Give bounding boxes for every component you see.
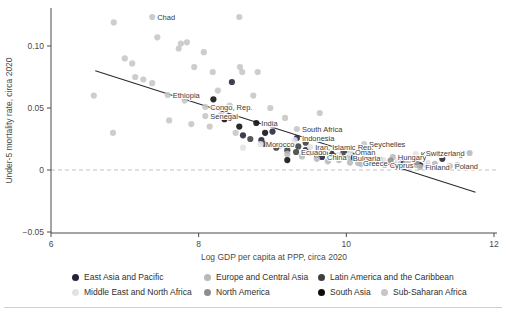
data-point bbox=[132, 74, 138, 80]
data-point bbox=[91, 93, 97, 99]
data-point bbox=[240, 145, 246, 151]
data-point bbox=[317, 110, 323, 116]
y-axis-title: Under-5 mortality rate, circa 2020 bbox=[4, 57, 14, 183]
figure-container: ChadEthiopiaCongo, Rep.SenegalSouth Afri… bbox=[0, 0, 506, 312]
legend-label: Europe and Central Asia bbox=[216, 272, 308, 282]
country-label: Morocco bbox=[266, 140, 295, 149]
legend-item-sa: South Asia bbox=[318, 287, 371, 297]
data-point bbox=[236, 14, 242, 20]
data-point bbox=[239, 69, 245, 75]
x-tick-label: 12 bbox=[489, 239, 499, 249]
data-point bbox=[282, 115, 288, 121]
data-point bbox=[258, 141, 264, 147]
data-point bbox=[202, 113, 208, 119]
data-point bbox=[467, 150, 473, 156]
country-label: Poland bbox=[455, 162, 478, 171]
data-point bbox=[110, 130, 116, 136]
country-label: South Africa bbox=[302, 125, 343, 134]
data-point bbox=[176, 45, 182, 51]
country-label: Greece bbox=[363, 159, 388, 168]
legend-item-mena: Middle East and North Africa bbox=[72, 287, 192, 297]
country-label: Switzerland bbox=[426, 149, 465, 158]
legend-dot-eap bbox=[72, 274, 79, 281]
data-point bbox=[284, 157, 290, 163]
legend-dot-ssa bbox=[381, 289, 388, 296]
x-axis-title: Log GDP per capita at PPP, circa 2020 bbox=[201, 252, 347, 262]
data-point bbox=[250, 93, 256, 99]
country-label: Chad bbox=[157, 13, 175, 22]
data-point bbox=[184, 39, 190, 45]
country-label: Cyprus bbox=[390, 161, 414, 170]
data-point bbox=[247, 136, 253, 142]
data-point bbox=[166, 117, 172, 123]
country-label: China bbox=[327, 153, 347, 162]
country-label: India bbox=[261, 119, 278, 128]
legend-dot-mena bbox=[72, 289, 79, 296]
data-point bbox=[191, 64, 197, 70]
legend-item-ssa: Sub-Saharan Africa bbox=[381, 287, 467, 297]
legend-label: North America bbox=[216, 287, 270, 297]
legend-item-na: North America bbox=[204, 287, 270, 297]
country-label: Indonesia bbox=[302, 134, 335, 143]
y-tick-label: 0.10 bbox=[27, 41, 44, 51]
data-point bbox=[149, 14, 155, 20]
data-point bbox=[188, 121, 194, 127]
legend-item-lac: Latin America and the Caribbean bbox=[318, 272, 454, 282]
country-label: Ethiopia bbox=[173, 91, 201, 100]
data-point bbox=[229, 79, 235, 85]
y-tick-label: 0 bbox=[39, 165, 44, 175]
data-point bbox=[294, 126, 300, 132]
data-point bbox=[111, 19, 117, 25]
x-tick-label: 8 bbox=[196, 239, 201, 249]
legend-label: Middle East and North Africa bbox=[84, 287, 192, 297]
data-point bbox=[129, 60, 135, 66]
data-point bbox=[122, 55, 128, 61]
legend-label: East Asia and Pacific bbox=[84, 272, 163, 282]
data-point bbox=[149, 80, 155, 86]
data-point bbox=[262, 130, 268, 136]
data-point bbox=[253, 120, 259, 126]
legend-item-eap: East Asia and Pacific bbox=[72, 272, 163, 282]
data-point bbox=[269, 129, 275, 135]
data-point bbox=[314, 156, 320, 162]
data-point bbox=[165, 92, 171, 98]
scatter-plot: ChadEthiopiaCongo, Rep.SenegalSouth Afri… bbox=[0, 0, 506, 262]
bottom-divider bbox=[4, 307, 502, 308]
data-point bbox=[267, 105, 273, 111]
data-point bbox=[255, 69, 261, 75]
x-tick-label: 6 bbox=[49, 239, 54, 249]
data-point bbox=[140, 76, 146, 82]
country-label: Congo, Rep. bbox=[210, 103, 252, 112]
x-tick-label: 10 bbox=[342, 239, 352, 249]
y-tick-label: −0.05 bbox=[22, 227, 44, 237]
legend-label: Sub-Saharan Africa bbox=[393, 287, 467, 297]
country-label: Finland bbox=[425, 163, 450, 172]
country-label: Senegal bbox=[210, 112, 238, 121]
legend-item-eca: Europe and Central Asia bbox=[204, 272, 308, 282]
data-point bbox=[240, 132, 246, 138]
legend-dot-lac bbox=[318, 274, 325, 281]
legend-label: South Asia bbox=[330, 287, 371, 297]
data-point bbox=[202, 104, 208, 110]
data-point bbox=[201, 49, 207, 55]
trend-line bbox=[95, 71, 475, 193]
legend-dot-na bbox=[204, 289, 211, 296]
data-point bbox=[210, 69, 216, 75]
data-point bbox=[233, 130, 239, 136]
data-point bbox=[236, 124, 242, 130]
data-point bbox=[215, 88, 221, 94]
data-point bbox=[207, 124, 213, 130]
legend-dot-sa bbox=[318, 289, 325, 296]
data-point bbox=[154, 34, 160, 40]
legend-label: Latin America and the Caribbean bbox=[330, 272, 454, 282]
y-tick-label: 0.05 bbox=[27, 103, 44, 113]
data-point bbox=[284, 151, 290, 157]
legend-dot-eca bbox=[204, 274, 211, 281]
data-point bbox=[210, 96, 216, 102]
data-point bbox=[293, 149, 299, 155]
